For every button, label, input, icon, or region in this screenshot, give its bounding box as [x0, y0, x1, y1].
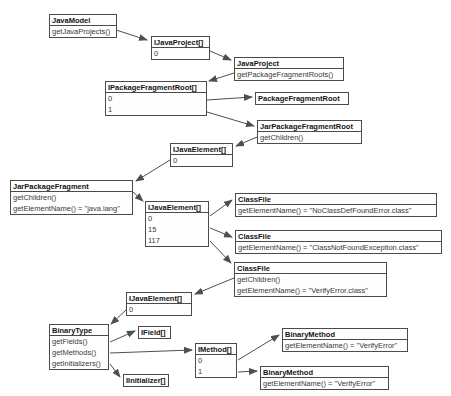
- arrow-ijavaelement-array-1-to-jar-package-fragment: [136, 160, 170, 181]
- class-box-row-jar-package-fragment-0: getChildren(): [11, 192, 132, 203]
- class-box-row-classfile-3-1: getElementName() = "VerifyError.class": [235, 285, 386, 296]
- arrow-ijavaelement-array-2-to-classfile-2: [210, 228, 232, 237]
- arrow-binary-type-to-ifield-array: [110, 331, 135, 342]
- arrow-ijavaproject-array-to-java-project: [210, 51, 231, 60]
- class-box-binary-type: BinaryTypegetFields()getMethods()getInit…: [49, 324, 109, 370]
- class-box-title-java-model: JavaModel: [50, 15, 116, 26]
- class-box-title-imethod-array: IMethod[]: [196, 344, 236, 355]
- class-box-row-classfile-3-0: getChildren(): [235, 274, 386, 285]
- arrow-java-project-to-ipackagefragmentroot-array: [209, 73, 234, 81]
- class-box-row-java-project-0: getPackageFragmentRoots(): [235, 69, 343, 80]
- class-box-row-binary-type-0: getFields(): [50, 336, 108, 347]
- arrow-ijavaelement-array-3-to-binary-type: [111, 310, 126, 324]
- class-box-row-classfile-1-0: getElementName() = "NoClassDefFoundError…: [236, 205, 436, 216]
- class-box-jar-package-fragment-root: JarPackageFragmentRootgetChildren(): [257, 120, 362, 144]
- arrow-binary-type-to-iinitializer-array: [110, 364, 120, 377]
- class-box-title-binary-method-2: BinaryMethod: [261, 367, 388, 378]
- class-box-title-classfile-3: ClassFile: [235, 263, 386, 274]
- arrow-jar-package-fragment-root-to-ijavaelement-array-1: [236, 137, 257, 146]
- class-box-row-ijavaelement-array-2-1: 15: [146, 224, 208, 235]
- class-box-row-ijavaelement-array-2-2: 117: [146, 235, 208, 246]
- class-box-row-jar-package-fragment-root-0: getChildren(): [258, 132, 361, 143]
- class-box-ijavaelement-array-2: IJavaElement[]015117: [145, 201, 209, 247]
- class-box-title-classfile-2: ClassFile: [236, 231, 441, 242]
- class-box-row-binary-method-1-0: getElementName() = "VerifyError": [283, 340, 407, 351]
- class-box-row-jar-package-fragment-1: getElementName() = "java.lang": [11, 203, 132, 214]
- class-box-title-classfile-1: ClassFile: [236, 194, 436, 205]
- class-box-title-ipackagefragmentroot-array: IPackageFragmentRoot[]: [106, 82, 206, 93]
- class-box-title-ijavaproject-array: IJavaProject[]: [152, 37, 209, 48]
- class-box-row-java-model-0: getJavaProjects(): [50, 26, 116, 37]
- class-box-ifield-array: IField[]: [138, 326, 171, 339]
- class-box-jar-package-fragment: JarPackageFragmentgetChildren()getElemen…: [10, 180, 133, 215]
- class-box-row-binary-type-1: getMethods(): [50, 347, 108, 358]
- class-box-row-classfile-2-0: getElementName() = "ClassNotFoundExcepti…: [236, 242, 441, 253]
- class-box-row-imethod-array-0: 0: [196, 355, 236, 366]
- class-box-classfile-3: ClassFilegetChildren()getElementName() =…: [234, 262, 387, 297]
- arrow-binary-type-to-imethod-array: [110, 350, 192, 353]
- arrow-imethod-array-to-binary-method-1: [238, 335, 279, 360]
- class-box-title-binary-type: BinaryType: [50, 325, 108, 336]
- class-box-binary-method-1: BinaryMethodgetElementName() = "VerifyEr…: [282, 328, 408, 352]
- class-box-title-ijavaelement-array-2: IJavaElement[]: [146, 202, 208, 213]
- class-box-ijavaproject-array: IJavaProject[]0: [151, 36, 210, 60]
- arrow-classfile-3-to-ijavaelement-array-3: [195, 278, 234, 294]
- class-box-title-package-fragment-root: PackageFragmentRoot: [256, 93, 348, 104]
- class-box-row-ijavaelement-array-1-0: 0: [171, 155, 232, 166]
- class-box-row-ijavaelement-array-3-0: 0: [127, 304, 191, 315]
- arrow-ipackagefragmentroot-array-to-package-fragment-root: [207, 97, 252, 100]
- java-model-object-diagram: JavaModelgetJavaProjects()IJavaProject[]…: [0, 0, 451, 396]
- class-box-imethod-array: IMethod[]01: [195, 343, 237, 378]
- class-box-binary-method-2: BinaryMethodgetElementName() = "VerifyEr…: [260, 366, 389, 390]
- class-box-iinitializer-array: IInitializer[]: [123, 374, 169, 387]
- class-box-title-iinitializer-array: IInitializer[]: [124, 375, 168, 386]
- class-box-row-ijavaelement-array-2-0: 0: [146, 213, 208, 224]
- class-box-ijavaelement-array-1: IJavaElement[]0: [170, 143, 233, 167]
- arrow-imethod-array-to-binary-method-2: [238, 371, 257, 372]
- class-box-java-model: JavaModelgetJavaProjects(): [49, 14, 117, 38]
- class-box-title-java-project: JavaProject: [235, 58, 343, 69]
- arrow-ipackagefragmentroot-array-to-jar-package-fragment-root: [207, 112, 254, 126]
- class-box-title-binary-method-1: BinaryMethod: [283, 329, 407, 340]
- class-box-classfile-2: ClassFilegetElementName() = "ClassNotFou…: [235, 230, 442, 254]
- class-box-row-ipackagefragmentroot-array-0: 0: [106, 93, 206, 104]
- arrow-ijavaelement-array-2-to-classfile-3: [210, 241, 231, 263]
- class-box-row-binary-method-2-0: getElementName() = "VerifyError": [261, 378, 388, 389]
- class-box-classfile-1: ClassFilegetElementName() = "NoClassDefF…: [235, 193, 437, 217]
- class-box-package-fragment-root: PackageFragmentRoot: [255, 92, 349, 105]
- class-box-title-jar-package-fragment: JarPackageFragment: [11, 181, 132, 192]
- class-box-row-binary-type-2: getInitializers(): [50, 358, 108, 369]
- class-box-title-ijavaelement-array-1: IJavaElement[]: [171, 144, 232, 155]
- class-box-ijavaelement-array-3: IJavaElement[]0: [126, 292, 192, 316]
- class-box-ipackagefragmentroot-array: IPackageFragmentRoot[]01: [105, 81, 207, 116]
- class-box-title-ijavaelement-array-3: IJavaElement[]: [127, 293, 191, 304]
- class-box-row-ijavaproject-array-0: 0: [152, 48, 209, 59]
- class-box-row-imethod-array-1: 1: [196, 366, 236, 377]
- arrow-java-model-to-ijavaproject-array: [113, 29, 147, 40]
- arrow-ijavaelement-array-2-to-classfile-1: [210, 200, 232, 216]
- class-box-title-ifield-array: IField[]: [139, 327, 170, 338]
- class-box-java-project: JavaProjectgetPackageFragmentRoots(): [234, 57, 344, 81]
- class-box-title-jar-package-fragment-root: JarPackageFragmentRoot: [258, 121, 361, 132]
- class-box-row-ipackagefragmentroot-array-1: 1: [106, 104, 206, 115]
- arrow-jar-package-fragment-to-ijavaelement-array-2: [133, 192, 143, 201]
